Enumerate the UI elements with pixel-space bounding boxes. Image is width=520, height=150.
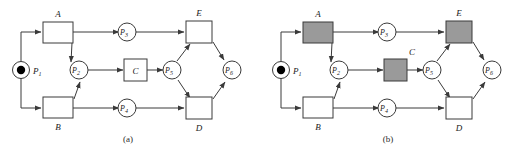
transition-a[interactable]: A xyxy=(43,9,73,43)
place-p3[interactable]: P3 xyxy=(118,23,136,41)
transition-b-box xyxy=(43,97,73,118)
transition-a-box xyxy=(43,22,73,43)
arc-b-p5-e xyxy=(437,44,450,61)
arc-e-p6 xyxy=(213,42,224,60)
place-p4[interactable]: P4 xyxy=(118,99,136,117)
arc-b-e-p6 xyxy=(473,42,484,60)
place-p1-label: P1 xyxy=(32,66,42,77)
arc-b-b-p2 xyxy=(334,82,340,99)
transition-c-b-box xyxy=(384,59,407,81)
transition-a-label: A xyxy=(54,9,61,19)
transition-e[interactable]: E xyxy=(186,8,212,43)
transition-d-box xyxy=(186,97,212,119)
transition-b-b-label: B xyxy=(315,122,321,132)
transition-a-b-box xyxy=(303,22,333,43)
transition-b-label: B xyxy=(55,122,61,132)
token-dot xyxy=(17,66,25,74)
panel-b-caption: (b) xyxy=(383,134,394,144)
transition-d-b-box xyxy=(446,97,472,119)
transition-d[interactable]: D xyxy=(186,97,212,133)
place-p6-b[interactable]: P6 xyxy=(483,61,501,79)
arc-a-p2 xyxy=(71,43,72,62)
panel-a: P1 A B P2 P3 C P4 xyxy=(13,8,242,144)
arc-p5-e xyxy=(177,44,190,61)
transition-e-box xyxy=(186,21,212,43)
transition-b-b-box xyxy=(303,97,333,118)
transition-c-label: C xyxy=(132,66,139,76)
arc-d-p6 xyxy=(213,82,225,99)
transition-a-b-label: A xyxy=(314,9,321,19)
place-p2-b[interactable]: P2 xyxy=(330,61,348,79)
place-p1-b-label: P1 xyxy=(292,66,302,77)
transition-c-b-label: C xyxy=(409,47,416,57)
place-p2[interactable]: P2 xyxy=(70,61,88,79)
transition-d-label: D xyxy=(195,123,203,133)
place-p5-b[interactable]: P5 xyxy=(423,61,441,79)
transition-e-b-box xyxy=(446,21,472,43)
transition-c-b[interactable]: C xyxy=(384,47,416,81)
transition-a-b[interactable]: A xyxy=(303,9,333,43)
place-p3-b[interactable]: P3 xyxy=(378,23,396,41)
arc-b-p5-d xyxy=(438,80,450,98)
token-dot-b xyxy=(277,66,285,74)
arc-b-d-p6 xyxy=(473,82,485,99)
transition-e-label: E xyxy=(195,8,202,18)
arc-p5-d xyxy=(178,80,190,98)
transition-e-b[interactable]: E xyxy=(446,8,472,43)
transition-c[interactable]: C xyxy=(124,59,147,81)
place-p4-b[interactable]: P4 xyxy=(378,99,396,117)
transition-b-b[interactable]: B xyxy=(303,97,333,132)
place-p1-b[interactable]: P1 xyxy=(273,62,302,79)
transition-e-b-label: E xyxy=(455,8,462,18)
arc-b-a-p2 xyxy=(331,43,332,62)
place-p1[interactable]: P1 xyxy=(13,62,42,79)
figure-canvas: P1 A B P2 P3 C P4 xyxy=(0,0,520,150)
transition-b[interactable]: B xyxy=(43,97,73,132)
panel-b: P1 A B P2 P3 C P4 xyxy=(273,8,502,144)
petri-net-figure: P1 A B P2 P3 C P4 xyxy=(0,0,520,150)
transition-d-b-label: D xyxy=(455,123,463,133)
place-p6[interactable]: P6 xyxy=(223,61,241,79)
arc-b-p2 xyxy=(74,82,80,99)
place-p5[interactable]: P5 xyxy=(163,61,181,79)
panel-a-caption: (a) xyxy=(123,134,133,144)
transition-d-b[interactable]: D xyxy=(446,97,472,133)
